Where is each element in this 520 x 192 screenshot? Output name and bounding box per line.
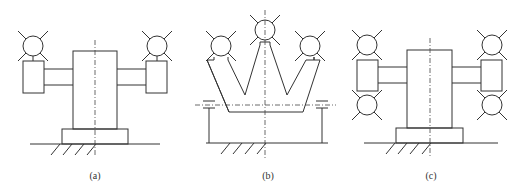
tool-head-icon [477,90,507,120]
tool-head-icon [352,30,382,60]
diagram-canvas: (a) (b) (c) [0,0,520,192]
figure-a: (a) [18,31,172,182]
figure-label: (b) [262,170,274,182]
column [407,50,452,128]
housing-left [357,60,378,91]
housing-left [23,61,44,93]
tool-head-icon [295,31,325,61]
housing-right [481,60,502,91]
figure-b: (b) [195,10,336,182]
figure-label: (c) [425,170,436,182]
tool-head-icon [206,31,236,61]
base [396,128,463,143]
housing-right [146,61,167,93]
figure-c: (c) [352,30,507,182]
tool-head-icon [477,30,507,60]
tool-head-icon [352,90,382,120]
figure-label: (a) [89,170,100,182]
